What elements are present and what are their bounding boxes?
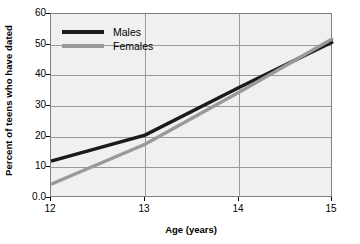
x-tick-label: 15 bbox=[311, 203, 351, 214]
line-chart: Percent of teens who have dated 60 50 40… bbox=[0, 0, 360, 244]
y-tick-label: 40 bbox=[16, 69, 46, 79]
x-tick-mark bbox=[144, 197, 145, 201]
y-tick-label: 30 bbox=[16, 100, 46, 110]
legend-swatch-females bbox=[62, 44, 104, 48]
x-tick-mark bbox=[238, 197, 239, 201]
y-tick-label: 50 bbox=[16, 39, 46, 49]
legend-item-females: Females bbox=[62, 39, 153, 53]
legend-label-females: Females bbox=[113, 40, 153, 52]
y-tick-label: 10 bbox=[16, 161, 46, 171]
y-tick-label: 20 bbox=[16, 131, 46, 141]
chart-legend: Males Females bbox=[59, 22, 157, 56]
legend-label-males: Males bbox=[113, 26, 141, 38]
y-tick-label: 60 bbox=[16, 8, 46, 18]
x-tick-mark bbox=[331, 197, 332, 201]
series-line-males bbox=[51, 42, 333, 162]
x-axis-title: Age (years) bbox=[50, 224, 332, 235]
x-tick-label: 12 bbox=[30, 203, 70, 214]
x-tick-label: 14 bbox=[218, 203, 258, 214]
y-axis-title-text: Percent of teens who have dated bbox=[3, 25, 14, 176]
x-tick-label: 13 bbox=[124, 203, 164, 214]
y-tick-label: 0.0 bbox=[16, 192, 46, 202]
x-tick-mark bbox=[50, 197, 51, 201]
plot-area: Males Females bbox=[50, 13, 332, 197]
legend-item-males: Males bbox=[62, 25, 153, 39]
legend-swatch-males bbox=[62, 30, 104, 34]
